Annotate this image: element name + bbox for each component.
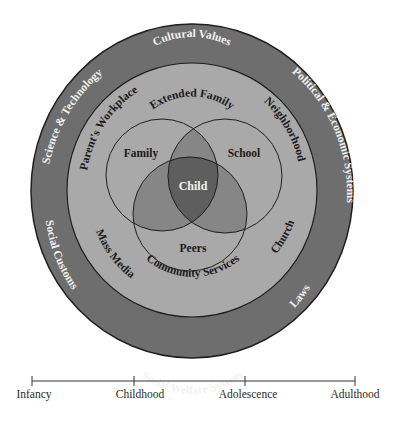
label-family: Family bbox=[124, 147, 159, 160]
stage-adulthood: Adulthood bbox=[330, 388, 379, 400]
label-child: Child bbox=[179, 179, 208, 193]
stage-infancy: Infancy bbox=[16, 388, 51, 401]
ecological-systems-diagram: Cultural Values Science & Technology Pol… bbox=[0, 0, 401, 431]
stage-adolescence: Adolescence bbox=[219, 388, 278, 400]
label-peers: Peers bbox=[180, 242, 207, 254]
stage-childhood: Childhood bbox=[116, 388, 165, 400]
label-school: School bbox=[228, 147, 261, 159]
